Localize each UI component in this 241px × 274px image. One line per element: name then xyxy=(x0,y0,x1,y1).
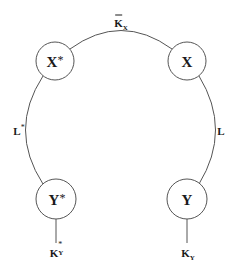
network-diagram: X* X Y* Y KX L* L K*Y KY xyxy=(0,0,241,274)
edge-label-k-y-star-main: K xyxy=(50,247,59,259)
edge-l xyxy=(199,76,216,184)
diagram-lines xyxy=(0,0,241,274)
edge-label-k-y: KY xyxy=(181,248,195,259)
edge-label-k-bar-x: KX xyxy=(114,18,128,29)
edge-k-bar-x xyxy=(70,31,172,50)
edge-label-k-y-sub: Y xyxy=(190,254,195,262)
node-y-star-label: Y* xyxy=(49,193,66,208)
node-y-label: Y xyxy=(182,193,193,208)
node-y-letter: Y xyxy=(182,192,193,208)
edge-label-k-bar-x-sub: X xyxy=(123,24,128,32)
node-y-star-asterisk: * xyxy=(59,191,65,205)
node-x-star-asterisk: * xyxy=(57,53,63,67)
edge-label-l-main: L xyxy=(217,125,224,137)
edge-label-l-star: L* xyxy=(13,126,24,137)
node-x-letter: X xyxy=(182,54,193,70)
edge-l-star xyxy=(26,76,44,184)
edge-label-k-y-main: K xyxy=(181,247,190,259)
node-x-label: X xyxy=(182,55,193,70)
edge-label-l: L xyxy=(217,126,224,137)
node-x-star-letter: X xyxy=(47,54,58,70)
edge-label-k-bar-x-main: K xyxy=(114,18,123,29)
node-x-star-label: X* xyxy=(47,55,64,70)
edge-label-k-y-star-sub: Y xyxy=(58,250,63,257)
edge-label-k-y-star-sup: * xyxy=(58,241,62,249)
edge-label-k-y-star: K*Y xyxy=(50,247,65,259)
edge-label-l-star-sup: * xyxy=(21,123,25,132)
node-y-star-letter: Y xyxy=(49,192,60,208)
